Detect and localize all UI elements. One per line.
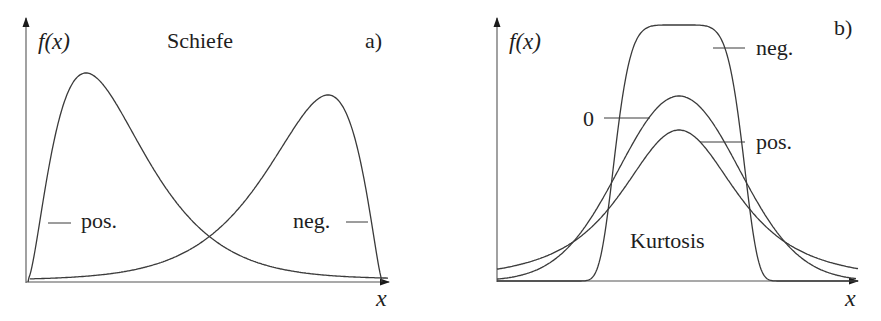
panel-b-pos-label: pos. <box>756 131 792 153</box>
panel-b-y-axis-label: f(x) <box>509 30 541 53</box>
panel-a-neg-label: neg. <box>293 210 330 232</box>
panel-a-tag: a) <box>365 30 382 52</box>
panel-b-zero-label: 0 <box>583 108 594 130</box>
panel-a-y-axis-label: f(x) <box>38 30 70 53</box>
panel-b-title: Kurtosis <box>630 230 705 252</box>
panel-a-curve-positive-skew <box>28 73 388 282</box>
panel-a-curve-negative-skew <box>30 95 382 282</box>
panel-a-x-axis-label: x <box>376 286 387 310</box>
panel-a-curves <box>28 73 388 282</box>
figure-canvas <box>0 0 881 321</box>
panel-b-x-axis-label: x <box>845 286 856 310</box>
panel-b-neg-label: neg. <box>756 37 793 59</box>
panel-a-pos-label: pos. <box>81 210 117 232</box>
panel-a-axes <box>26 18 389 283</box>
panel-b-tag: b) <box>834 17 852 39</box>
panel-a-title: Schiefe <box>167 30 233 52</box>
